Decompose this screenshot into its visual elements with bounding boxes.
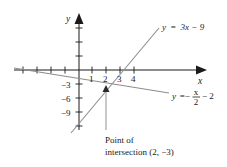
coordinate-plane-svg: 1 2 3 4 −3 −6 −9 y x y = 3x − 9 y =− x 2… (0, 0, 227, 167)
y-tick-label-neg-9: −9 (61, 108, 71, 118)
equation1-eq: = (171, 22, 176, 32)
equation2-lhs: y (171, 91, 176, 101)
line-y-equals-3x-minus-9 (71, 28, 159, 133)
svg-text:y =−: y =− (171, 91, 190, 101)
y-axis-label: y (65, 14, 71, 24)
equation2-tail: − 2 (202, 91, 214, 101)
equation-label-line2: y =− x 2 − 2 (171, 87, 214, 107)
equation2-fraction-numerator: x (194, 87, 199, 97)
x-axis-label: x (197, 76, 203, 86)
equation1-lhs: y (161, 22, 166, 32)
annotation-line-2: intersection (2, −3) (105, 147, 174, 157)
y-tick-label-neg-6: −6 (61, 94, 71, 104)
y-axis-arrowhead (75, 13, 84, 24)
x-tick-label-1: 1 (89, 74, 94, 84)
equation1-rhs: 3x − 9 (180, 22, 205, 32)
y-tick-label-neg-3: −3 (61, 80, 71, 90)
annotation-line-1: Point of (105, 135, 134, 145)
equation2-eq: =− (180, 91, 190, 101)
graph-figure: 1 2 3 4 −3 −6 −9 y x y = 3x − 9 y =− x 2… (0, 0, 227, 167)
x-tick-label-3: 3 (117, 74, 122, 84)
x-tick-label-2: 2 (103, 74, 108, 84)
equation2-fraction-denominator: 2 (194, 97, 199, 107)
x-axis-arrowhead (196, 66, 207, 75)
equation-label-line1: y = 3x − 9 (161, 22, 205, 32)
x-tick-label-4: 4 (131, 74, 136, 84)
